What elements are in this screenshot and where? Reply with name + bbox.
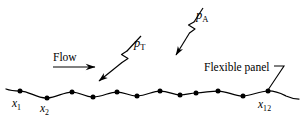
node-label-x1: x1: [12, 98, 21, 111]
node-dot: [194, 91, 199, 96]
node-dot: [135, 94, 140, 99]
node-label-x1-subscript: 1: [17, 103, 21, 112]
node-dot: [241, 94, 246, 99]
pressure-pT-subscript: T: [140, 42, 145, 52]
node-dot: [115, 90, 120, 95]
pressure-pA-label: pA: [196, 9, 209, 23]
node-label-x2-subscript: 2: [45, 108, 49, 117]
node-dot: [91, 95, 96, 100]
node-dot: [18, 89, 23, 94]
node-label-x2: x2: [40, 103, 49, 116]
flexible-panel-curve: [6, 89, 299, 99]
node-dot: [158, 89, 163, 94]
node-label-x12: x12: [258, 99, 271, 112]
pressure-pA-subscript: A: [202, 14, 208, 24]
node-dot: [45, 96, 50, 101]
flexible-panel-label: Flexible panel: [204, 62, 269, 74]
flow-label: Flow: [53, 52, 77, 64]
figure-flexible-panel: Flow Flexible panel pT pA x1 x2 x12: [0, 0, 304, 119]
flexible-panel-leader-line: [268, 66, 284, 90]
node-dot: [178, 93, 183, 98]
node-dot: [216, 89, 221, 94]
node-label-x12-subscript: 12: [263, 104, 271, 113]
pressure-pT-label: pT: [134, 37, 146, 51]
node-dot: [70, 90, 75, 95]
